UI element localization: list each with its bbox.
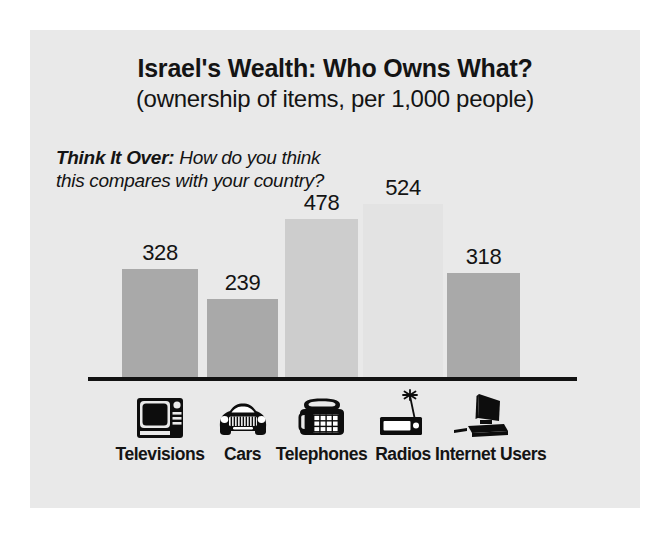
category-label-internet-users: Internet Users	[435, 444, 532, 465]
category-televisions: Televisions	[122, 385, 198, 465]
plot-area: 328 239 478 524 318	[30, 30, 640, 508]
bar-value-cars: 239	[207, 270, 278, 296]
chart-figure: Israel's Wealth: Who Owns What? (ownersh…	[0, 0, 670, 537]
category-radios: Radios	[363, 375, 443, 465]
category-cars: Cars	[207, 385, 278, 465]
bar-televisions	[122, 269, 198, 379]
bar-value-internet-users: 318	[447, 244, 520, 270]
bar-telephones	[285, 219, 358, 379]
car-icon	[207, 401, 278, 439]
bar-value-radios: 524	[363, 175, 443, 201]
category-internet-users: Internet Users	[447, 380, 520, 465]
computer-icon	[447, 391, 520, 439]
television-icon	[122, 397, 198, 439]
poster-card: Israel's Wealth: Who Owns What? (ownersh…	[30, 30, 640, 508]
bar-value-televisions: 328	[122, 240, 198, 266]
bar-internet-users	[447, 273, 520, 379]
category-telephones: Telephones	[285, 385, 358, 465]
telephone-icon	[285, 397, 358, 439]
bar-radios	[363, 204, 443, 379]
radio-icon	[363, 387, 443, 439]
bar-value-telephones: 478	[285, 190, 358, 216]
bar-cars	[207, 299, 278, 379]
